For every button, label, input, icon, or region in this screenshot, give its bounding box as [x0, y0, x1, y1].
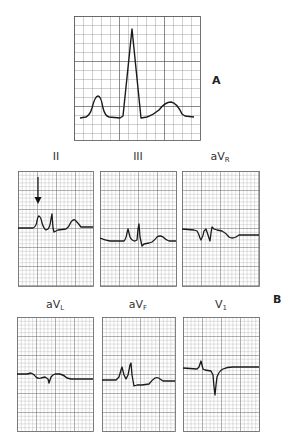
- lead-label-avl: aVL: [15, 298, 95, 312]
- lead-label-v1: V1: [181, 298, 261, 312]
- lead-avf-panel: [102, 317, 176, 432]
- lead-ii-panel: [18, 171, 94, 287]
- lead-label-avr: aVR: [180, 150, 260, 164]
- lead-v1-panel: [183, 317, 260, 432]
- ecg-grid-v1: [183, 317, 260, 432]
- lead-label-avf: aVF: [98, 298, 178, 312]
- ecg-grid-a: [74, 16, 201, 141]
- section-label-b: B: [273, 293, 281, 306]
- ecg-grid-avr: [182, 171, 260, 287]
- section-label-a: A: [212, 74, 221, 87]
- lead-avr-panel: [182, 171, 260, 287]
- lead-iii-panel: [100, 171, 177, 287]
- lead-label-ii: II: [16, 150, 96, 163]
- lead-avl-panel: [17, 317, 94, 432]
- ecg-grid-iii: [100, 171, 177, 287]
- ecg-grid-ii: [18, 171, 94, 287]
- ecg-grid-avl: [17, 317, 94, 432]
- lead-label-iii: III: [98, 150, 178, 163]
- panel-a-normal-ecg: [74, 16, 201, 141]
- ecg-grid-avf: [102, 317, 176, 432]
